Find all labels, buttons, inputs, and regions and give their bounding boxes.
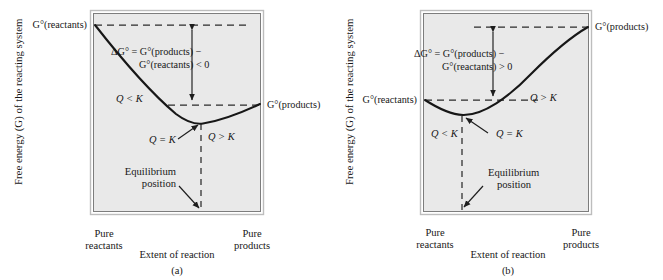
q-equals-k-label-a: Q = K: [149, 134, 177, 145]
g-products-label-a: G°(products): [267, 99, 320, 111]
x-left-label-line2-b: reactants: [416, 239, 453, 250]
q-less-than-k-label-b: Q < K: [431, 128, 459, 139]
equilibrium-label-line2-a: position: [142, 178, 177, 189]
x-left-label-line1-a: Pure: [94, 228, 114, 239]
x-right-label-line1-b: Pure: [571, 227, 591, 238]
x-left-label-line1-b: Pure: [425, 227, 445, 238]
plot-area-background-a: [93, 13, 261, 212]
x-right-label-line2-a: products: [234, 240, 270, 251]
x-axis-label-b: Extent of reaction: [470, 249, 546, 260]
panel-a: Free energy (G) of the reacting system G…: [0, 0, 332, 280]
g-reactants-label-b: G°(reactants): [363, 94, 417, 106]
equilibrium-label-line2-b: position: [497, 179, 532, 190]
delta-g-label-line2-b: G°(reactants) > 0: [442, 61, 512, 73]
q-greater-than-k-label-a: Q > K: [208, 131, 236, 142]
x-right-label-line2-b: products: [563, 239, 599, 250]
x-left-label-line2-a: reactants: [85, 240, 122, 251]
equilibrium-label-line1-b: Equilibrium: [488, 167, 540, 178]
panel-caption-a: (a): [171, 265, 183, 277]
delta-g-label-line2-a: G°(reactants) < 0: [139, 59, 209, 71]
delta-g-label-line1-a: ΔG° = G°(products) −: [111, 46, 202, 58]
y-axis-label-b: Free energy (G) of the reacting system: [343, 18, 356, 185]
panel-caption-b: (b): [502, 265, 515, 277]
y-axis-label-a: Free energy (G) of the reacting system: [12, 18, 25, 185]
q-less-than-k-label-a: Q < K: [116, 93, 144, 104]
x-right-label-line1-a: Pure: [242, 228, 262, 239]
delta-g-label-line1-b: ΔG° = G°(products) −: [414, 48, 505, 60]
g-reactants-label-a: G°(reactants): [33, 19, 87, 31]
panel-b: Free energy (G) of the reacting system G…: [331, 0, 663, 280]
q-equals-k-label-b: Q = K: [496, 128, 524, 139]
free-energy-figure: Free energy (G) of the reacting system G…: [0, 0, 663, 280]
q-greater-than-k-label-b: Q > K: [530, 92, 558, 103]
x-axis-label-a: Extent of reaction: [139, 249, 215, 260]
g-products-label-b: G°(products): [595, 21, 648, 33]
equilibrium-label-line1-a: Equilibrium: [125, 166, 177, 177]
